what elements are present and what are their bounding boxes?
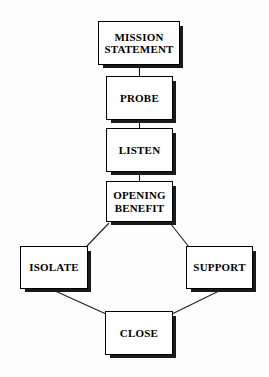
node-isolate[interactable]: ISOLATE (20, 246, 88, 289)
flowchart-canvas: MISSION STATEMENT PROBE LISTEN OPENING B… (0, 0, 269, 377)
node-label-isolate: ISOLATE (29, 261, 79, 274)
node-label-probe: PROBE (120, 92, 159, 105)
connector-opening-benefit-to-support (170, 223, 189, 247)
connector-support-to-close (172, 290, 221, 314)
connector-opening-benefit-to-isolate (86, 223, 109, 247)
node-support[interactable]: SUPPORT (186, 246, 253, 289)
node-label-mission-statement: MISSION STATEMENT (104, 31, 173, 56)
node-listen[interactable]: LISTEN (106, 128, 173, 172)
node-probe[interactable]: PROBE (106, 76, 173, 120)
node-label-listen: LISTEN (119, 144, 161, 157)
node-close[interactable]: CLOSE (105, 311, 173, 355)
node-label-close: CLOSE (120, 327, 158, 340)
connector-isolate-to-close (53, 290, 106, 314)
node-label-support: SUPPORT (193, 261, 245, 274)
node-mission-statement[interactable]: MISSION STATEMENT (98, 21, 180, 65)
node-opening-benefit[interactable]: OPENING BENEFIT (106, 181, 173, 222)
node-label-opening-benefit: OPENING BENEFIT (113, 189, 166, 214)
